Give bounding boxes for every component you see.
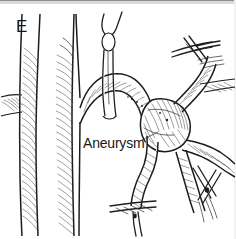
clamp-upper-right [172, 36, 224, 68]
left-branch-stub [1, 95, 22, 116]
center-vertical-vessel [56, 14, 80, 236]
right-branch [182, 140, 235, 177]
aneurysm-callout-label: Aneurysm [83, 136, 144, 150]
clamp-bottom [110, 201, 156, 236]
anatomy-illustration [0, 0, 236, 239]
panel-letter: E [16, 18, 27, 35]
left-vertical-vessel [20, 14, 40, 236]
upper-right-branch [174, 56, 235, 112]
clamp-lower-right [193, 166, 221, 222]
figure-panel: E Aneurysm [0, 0, 236, 239]
